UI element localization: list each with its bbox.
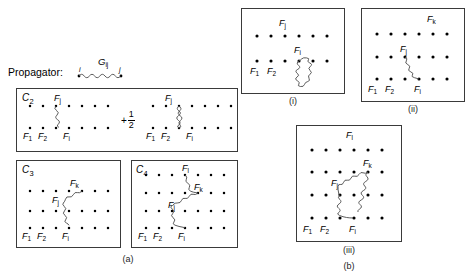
pi-label-fi: Fi: [294, 45, 301, 55]
piii-fi-sub: i: [355, 228, 356, 235]
c4-fl-sub: l: [188, 167, 189, 174]
c4-fj-sub: j: [174, 204, 175, 211]
c2-t1-label-fi: Fi: [63, 131, 70, 141]
propagator-endpoint-j-dot: [120, 75, 123, 78]
c4-label-fl: Fl: [182, 163, 189, 173]
propagator-wave-line: [79, 74, 121, 77]
caption-b: (b): [319, 261, 379, 271]
c2-t2-fj-base: F: [165, 93, 171, 103]
pii-fk-base: F: [427, 14, 433, 24]
pi-f1-base: F: [250, 66, 256, 76]
pii-f2-sub: 2: [391, 88, 395, 95]
c2-coefficient-denominator: 2: [129, 121, 134, 131]
piii-f2-sub: 2: [326, 228, 330, 235]
c2-coefficient-sign: +: [121, 115, 127, 126]
c2-t1-fj-sub: j: [60, 97, 61, 104]
pi-fi-base: F: [294, 45, 300, 55]
c2-t1-f1-base: F: [23, 131, 29, 141]
panel-i: [241, 8, 345, 94]
panel-c4-label: C4: [136, 164, 148, 178]
c3-fk-sub: k: [76, 182, 79, 189]
c4-f2-base: F: [153, 231, 159, 241]
c2-t1-label-fj: Fj: [54, 93, 61, 103]
pi-label-f1: F1: [250, 66, 259, 76]
c2-coefficient-numerator: 1: [129, 110, 134, 120]
caption-a: (a): [98, 254, 158, 264]
c4-label-fk: Fk: [194, 182, 203, 192]
pii-f1-sub: 1: [374, 88, 378, 95]
piii-label-fl: Fl: [346, 130, 353, 140]
piii-label-fi: Fi: [349, 224, 356, 234]
pii-label-f1: F1: [368, 84, 377, 94]
c3-f1-sub: 1: [28, 235, 32, 242]
pii-fj-base: F: [400, 44, 406, 54]
pi-f2-base: F: [267, 66, 273, 76]
c2-t1-f1-sub: 1: [29, 135, 33, 142]
pii-fj-sub: j: [406, 48, 407, 55]
c3-f1-base: F: [22, 231, 28, 241]
c2-t1-fi-sub: i: [69, 135, 70, 142]
c3-label-f1: F1: [22, 231, 31, 241]
pii-label-f2: F2: [385, 84, 394, 94]
piii-label-fk: Fk: [363, 158, 372, 168]
c4-label-f1: F1: [138, 231, 147, 241]
c3-fk-base: F: [70, 178, 76, 188]
c3-label-fi: Fi: [62, 231, 69, 241]
pi-fj-base: F: [279, 18, 285, 28]
panel-c2-label: C2: [22, 92, 34, 106]
propagator-end-right-label: j: [119, 66, 121, 73]
piii-fj-base: F: [331, 178, 337, 188]
figure-root: Propagator: Gij i j C2 Fj F1 F2 Fi +12 F…: [0, 0, 473, 280]
c3-f2-sub: 2: [43, 235, 47, 242]
c2-t2-label-f1: F1: [146, 131, 155, 141]
piii-fl-base: F: [346, 130, 352, 140]
piii-fi-base: F: [349, 224, 355, 234]
c4-fi-base: F: [178, 231, 184, 241]
pii-label-fi: Fi: [414, 84, 421, 94]
c2-t1-label-f1: F1: [23, 131, 32, 141]
pii-fi-base: F: [414, 84, 420, 94]
pii-f2-base: F: [385, 84, 391, 94]
panel-c3-label-sub: 3: [29, 169, 33, 178]
propagator-end-left-label: i: [79, 66, 81, 73]
c2-t1-f2-sub: 2: [44, 135, 48, 142]
piii-f1-sub: 1: [309, 228, 313, 235]
c2-t2-label-f2: F2: [161, 131, 170, 141]
panel-c4-label-sub: 4: [143, 169, 147, 178]
c2-t2-fi-sub: i: [192, 135, 193, 142]
c2-t2-f2-sub: 2: [167, 135, 171, 142]
c2-t2-f1-sub: 1: [152, 135, 156, 142]
c3-fj-base: F: [52, 195, 58, 205]
pii-fi-sub: i: [420, 88, 421, 95]
c4-label-f2: F2: [153, 231, 162, 241]
c4-f1-sub: 1: [144, 235, 148, 242]
c2-t2-label-fj: Fj: [165, 93, 172, 103]
piii-fj-sub: j: [337, 182, 338, 189]
c2-coefficient: +12: [121, 110, 135, 130]
c2-t1-fj-base: F: [54, 93, 60, 103]
propagator-symbol-sub: ij: [105, 61, 108, 68]
panel-c3-label: C3: [22, 164, 34, 178]
c3-label-fk: Fk: [70, 178, 79, 188]
propagator-endpoint-i-dot: [78, 75, 81, 78]
caption-i: (i): [263, 96, 323, 106]
c4-f2-sub: 2: [159, 235, 163, 242]
c2-t2-fj-sub: j: [171, 97, 172, 104]
c4-f1-base: F: [138, 231, 144, 241]
c2-t1-fi-base: F: [63, 131, 69, 141]
pi-label-f2: F2: [267, 66, 276, 76]
pii-f1-base: F: [368, 84, 374, 94]
c4-fk-sub: k: [200, 186, 203, 193]
pii-label-fk: Fk: [427, 14, 436, 24]
c2-t2-f2-base: F: [161, 131, 167, 141]
c4-fj-base: F: [168, 200, 174, 210]
pii-label-fj: Fj: [400, 44, 407, 54]
c3-label-f2: F2: [37, 231, 46, 241]
piii-f2-base: F: [320, 224, 326, 234]
c4-fk-base: F: [194, 182, 200, 192]
caption-ii: (ii): [383, 104, 443, 114]
c2-t1-label-f2: F2: [38, 131, 47, 141]
panel-c2-label-sub: 2: [29, 97, 33, 106]
c2-t1-f2-base: F: [38, 131, 44, 141]
pi-label-fj: Fj: [279, 18, 286, 28]
